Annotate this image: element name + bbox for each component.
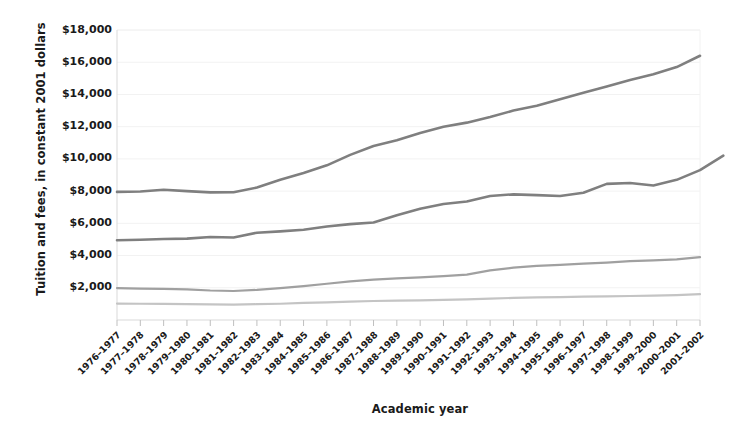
x-axis-tick-labels: 1976–19771977–19781978–19791979–19801980…	[0, 0, 737, 437]
chart-container: Tuition and fees, in constant 2001 dolla…	[0, 0, 737, 437]
